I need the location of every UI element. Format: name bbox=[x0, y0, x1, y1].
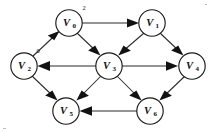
node-v5-annotation: 1 bbox=[78, 92, 81, 99]
node-v6[interactable]: V 6 bbox=[137, 98, 163, 124]
edge-v1-v3-arrowhead bbox=[118, 45, 131, 55]
edge-v0-v1[interactable] bbox=[82, 18, 139, 27]
node-v2-label: V bbox=[18, 60, 26, 71]
edge-v2-v5-arrowhead bbox=[45, 91, 57, 101]
graph-canvas: V 0 2 V 1 V 2 0 V 3 bbox=[0, 0, 214, 133]
edge-v0-v3[interactable] bbox=[77, 33, 101, 55]
edge-v3-v6-arrowhead bbox=[129, 91, 141, 101]
edge-v1-v4[interactable] bbox=[160, 33, 184, 55]
node-v4-label: V bbox=[186, 60, 194, 71]
edge-v0-v1-arrowhead bbox=[127, 18, 139, 27]
node-v3-label: V bbox=[103, 60, 111, 71]
node-v5-subscript: 5 bbox=[69, 110, 73, 118]
node-v0-annotation: 2 bbox=[82, 4, 85, 11]
edge-v6-v5-arrowhead bbox=[80, 106, 93, 116]
node-v5[interactable]: V 5 1 bbox=[53, 92, 82, 125]
edge-v3-v4-arrowhead bbox=[166, 61, 178, 71]
node-v2-subscript: 2 bbox=[27, 65, 31, 73]
edge-v2-v0-arrowhead bbox=[48, 31, 60, 40]
node-v2[interactable]: V 2 0 bbox=[11, 47, 40, 80]
edge-v3-v6[interactable] bbox=[117, 76, 142, 100]
node-v1[interactable]: V 1 bbox=[139, 10, 165, 36]
graph-figure: V 0 2 V 1 V 2 0 V 3 bbox=[0, 0, 214, 133]
edge-v3-v2[interactable] bbox=[38, 61, 97, 71]
edge-v4-v6-arrowhead bbox=[159, 90, 172, 100]
node-v0-label: V bbox=[63, 17, 71, 28]
node-v6-label: V bbox=[144, 105, 152, 116]
node-v5-label: V bbox=[60, 105, 68, 116]
node-v3-subscript: 3 bbox=[112, 65, 116, 73]
edge-v2-v5[interactable] bbox=[32, 76, 58, 100]
node-v0[interactable]: V 0 2 bbox=[56, 4, 86, 37]
edge-v3-v2-arrowhead bbox=[38, 61, 51, 71]
node-v4-subscript: 4 bbox=[195, 65, 199, 73]
edge-v0-v3-arrowhead bbox=[88, 46, 100, 56]
edge-v4-v6[interactable] bbox=[159, 76, 185, 100]
edge-v1-v4-arrowhead bbox=[171, 46, 183, 56]
node-layer: V 0 2 V 1 V 2 0 V 3 bbox=[11, 4, 205, 125]
node-v1-subscript: 1 bbox=[155, 22, 159, 30]
edge-v3-v4[interactable] bbox=[122, 61, 178, 71]
scan-speck bbox=[3, 128, 6, 129]
node-v4[interactable]: V 4 bbox=[179, 53, 205, 79]
node-v2-annotation: 0 bbox=[36, 47, 39, 54]
scan-speck bbox=[205, 4, 207, 5]
node-v6-subscript: 6 bbox=[153, 110, 157, 118]
edge-v6-v5[interactable] bbox=[80, 106, 138, 116]
edge-v1-v3[interactable] bbox=[118, 33, 144, 55]
node-v3[interactable]: V 3 bbox=[96, 53, 122, 79]
node-v1-label: V bbox=[146, 17, 154, 28]
node-v0-subscript: 0 bbox=[72, 22, 76, 30]
